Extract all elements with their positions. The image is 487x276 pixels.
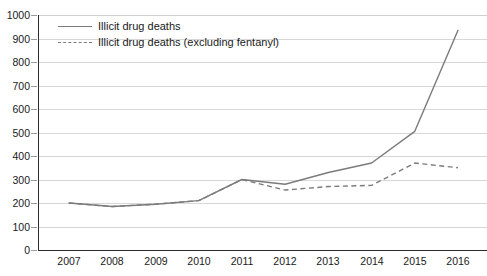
series-line-illicit-drug-deaths-excluding-fentanyl <box>69 163 458 206</box>
legend-dashed-line-icon <box>58 37 92 47</box>
legend-label: Illicit drug deaths (excluding fentanyl) <box>98 37 279 48</box>
legend-label: Illicit drug deaths <box>98 21 181 32</box>
legend-item-illicit-drug-deaths: Illicit drug deaths <box>58 18 279 34</box>
chart-legend: Illicit drug deaths Illicit drug deaths … <box>58 18 279 50</box>
legend-solid-line-icon <box>58 21 92 31</box>
illicit-drug-deaths-line-chart: 1000 900 800 700 600 500 400 300 200 100… <box>0 0 487 276</box>
legend-item-illicit-drug-deaths-excluding-fentanyl: Illicit drug deaths (excluding fentanyl) <box>58 34 279 50</box>
series-line-illicit-drug-deaths <box>69 30 458 206</box>
